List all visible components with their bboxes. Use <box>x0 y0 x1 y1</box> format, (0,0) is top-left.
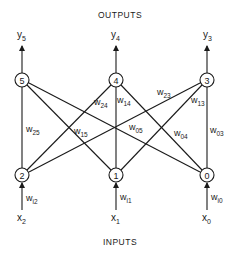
weight-05: w05 <box>128 122 143 134</box>
input-label-x1: x1 <box>111 212 120 225</box>
weight-23: w23 <box>156 87 171 99</box>
neural-network-diagram: 5 4 3 2 1 0 OUTPUTS INPUTS y5 y4 y3 x2 x… <box>0 0 242 254</box>
weight-14: w14 <box>116 95 131 107</box>
node-2-label: 2 <box>19 171 24 181</box>
inputs-title: INPUTS <box>103 237 137 247</box>
node-5-label: 5 <box>19 76 24 86</box>
output-label-y3: y3 <box>203 29 212 42</box>
weight-i1: wi1 <box>119 192 132 204</box>
weight-i2: wi2 <box>25 193 38 205</box>
weight-03: w03 <box>209 125 224 137</box>
weight-13: w13 <box>190 95 205 107</box>
node-4-label: 4 <box>113 76 118 86</box>
weight-25: w25 <box>25 124 40 136</box>
weight-04: w04 <box>173 128 188 140</box>
node-3-label: 3 <box>204 76 209 86</box>
weight-15: w15 <box>73 126 88 138</box>
weight-i0: wi0 <box>210 192 223 204</box>
weight-24: w24 <box>93 97 108 109</box>
output-label-y5: y5 <box>17 29 26 42</box>
node-1-label: 1 <box>113 171 118 181</box>
outputs-title: OUTPUTS <box>98 10 142 20</box>
node-0-label: 0 <box>204 171 209 181</box>
input-label-x2: x2 <box>17 212 26 225</box>
output-label-y4: y4 <box>111 29 120 42</box>
input-label-x0: x0 <box>202 212 211 225</box>
